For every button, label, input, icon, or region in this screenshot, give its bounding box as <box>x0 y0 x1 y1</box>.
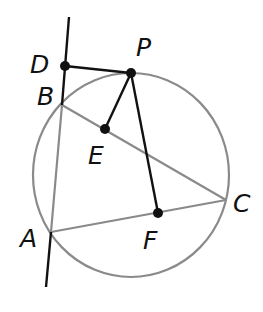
segment-BC <box>62 105 226 200</box>
segment-AB <box>51 105 62 232</box>
label-A: A <box>20 226 37 251</box>
point-D-dot <box>60 61 70 71</box>
point-E-dot <box>100 124 110 134</box>
label-P: P <box>136 35 151 60</box>
geometry-diagram <box>0 0 263 312</box>
segment-PF <box>131 73 158 213</box>
label-D: D <box>30 52 49 77</box>
label-F: F <box>143 228 157 253</box>
label-E: E <box>88 143 104 168</box>
label-B: B <box>37 84 54 109</box>
line-lower-extension <box>46 232 51 287</box>
line-upper-extension <box>62 17 69 105</box>
segment-AC <box>51 200 226 232</box>
point-P-dot <box>126 68 136 78</box>
segment-PE <box>105 73 131 129</box>
label-C: C <box>233 191 250 216</box>
point-F-dot <box>153 208 163 218</box>
segment-DP <box>65 66 131 73</box>
